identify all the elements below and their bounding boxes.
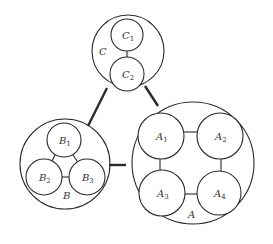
link-C-A xyxy=(145,86,158,106)
diagram-svg: CC1C2BB1B2B3AA1A2A3A4 xyxy=(0,0,273,244)
link-B1-B3 xyxy=(73,155,77,161)
network-diagram: CC1C2BB1B2B3AA1A2A3A4 xyxy=(0,0,273,244)
group-B-label: B xyxy=(62,190,70,201)
group-A-label: A xyxy=(187,209,195,220)
link-B1-B2 xyxy=(52,155,55,161)
link-C-B xyxy=(88,88,107,126)
group-C-label: C xyxy=(99,46,107,57)
